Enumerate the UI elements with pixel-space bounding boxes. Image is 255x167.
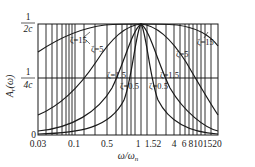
curves: [38, 24, 218, 134]
resonance-chart: ζ=15 ζ=5 ζ=1.5 ζ=0.5 ζ=0.5 ζ=1.5 ζ=5 ζ=1…: [0, 0, 255, 167]
label-right-zeta-15: ζ=15: [197, 37, 214, 47]
y-tick-mid-num: 1: [26, 67, 31, 77]
x-tick-8-20: 8101520: [188, 139, 222, 149]
y-axis-labels: 1 2c 1 4c 0 Ar(ω): [4, 12, 36, 140]
label-left-zeta-5: ζ=5: [91, 44, 104, 54]
y-tick-top-num: 1: [26, 12, 31, 22]
plot-frame: [38, 24, 218, 135]
label-right-zeta-1.5: ζ=1.5: [160, 70, 179, 80]
x-axis-title: ω/ωn: [118, 150, 139, 163]
x-tick-0.5: 0.5: [101, 139, 113, 149]
curve-zeta-5: [38, 24, 218, 115]
x-tick-0.1: 0.1: [68, 139, 80, 149]
curve-zeta-0.5: [38, 24, 218, 134]
y-tick-top-den: 2c: [24, 24, 34, 34]
y-tick-mid-den: 4c: [24, 80, 34, 90]
label-left-zeta-1.5: ζ=1.5: [107, 70, 126, 80]
x-tick-1: 1: [136, 139, 141, 149]
x-tick-6: 6: [182, 139, 187, 149]
x-tick-0.03: 0.03: [30, 139, 47, 149]
x-tick-4: 4: [172, 139, 177, 149]
x-tick-1.5-2: 1.52: [145, 139, 162, 149]
y-axis-title: Ar(ω): [4, 74, 17, 98]
label-left-zeta-0.5: ζ=0.5: [120, 81, 139, 91]
x-axis-labels: 0.03 0.1 0.5 1 1.52 4 6 8101520 ω/ωn: [30, 139, 222, 163]
label-right-zeta-0.5: ζ=0.5: [149, 81, 168, 91]
curve-labels: ζ=15 ζ=5 ζ=1.5 ζ=0.5 ζ=0.5 ζ=1.5 ζ=5 ζ=1…: [70, 32, 214, 91]
label-right-zeta-5: ζ=5: [176, 49, 189, 59]
